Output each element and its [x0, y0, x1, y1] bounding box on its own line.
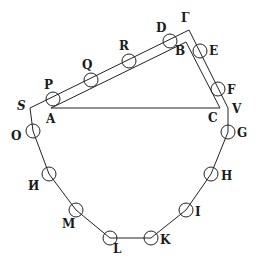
label-r: R	[119, 39, 130, 53]
label-s: S	[17, 99, 26, 113]
circle-markers	[26, 34, 235, 245]
inner-band-line	[51, 42, 220, 108]
label-a: A	[45, 112, 56, 126]
label-e: E	[209, 44, 218, 58]
label-v: V	[231, 102, 242, 116]
point-labels: S A P Q R D Γ B E F C V G H I K L M И O	[11, 11, 247, 256]
label-k: K	[160, 233, 171, 247]
geometric-diagram: S A P Q R D Γ B E F C V G H I K L M И O	[0, 0, 258, 266]
label-c: C	[208, 111, 218, 125]
label-d: D	[156, 21, 166, 35]
label-i: I	[195, 205, 201, 219]
label-m: M	[62, 217, 75, 231]
label-n: И	[28, 179, 39, 193]
label-f: F	[227, 83, 236, 97]
label-b: B	[175, 44, 185, 58]
label-o: O	[11, 129, 21, 143]
circle-r	[122, 54, 136, 68]
label-h: H	[221, 169, 232, 183]
label-q: Q	[82, 58, 92, 72]
label-gamma: Γ	[181, 11, 190, 25]
label-p: P	[44, 78, 53, 92]
label-l: L	[113, 242, 122, 256]
label-g: G	[237, 126, 247, 140]
